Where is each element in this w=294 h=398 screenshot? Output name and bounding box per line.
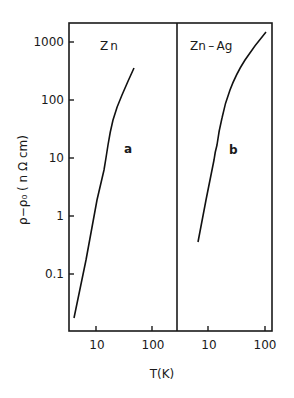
curve-label-b: b bbox=[229, 143, 238, 157]
y-axis-tick-labels: 1000 100 10 1 0.1 bbox=[33, 35, 64, 281]
curve-a bbox=[74, 68, 134, 318]
y-tick-label: 1000 bbox=[33, 35, 64, 49]
x-axis-title: T(K) bbox=[149, 367, 175, 381]
curve-b bbox=[198, 32, 266, 242]
y-tick-label: 0.1 bbox=[45, 267, 64, 281]
x-tick-label: 10 bbox=[89, 338, 104, 352]
y-tick-label: 10 bbox=[49, 151, 64, 165]
x-axis-tick-labels: 10 100 10 100 bbox=[89, 338, 276, 352]
curve-label-a: a bbox=[124, 142, 132, 156]
y-tick-label: 1 bbox=[56, 209, 64, 223]
panel-label-zn: Zn bbox=[100, 39, 120, 53]
x-tick-label: 100 bbox=[142, 338, 165, 352]
panel-label-zn-ag: Zn – Ag bbox=[190, 39, 232, 53]
y-tick-label: 100 bbox=[41, 93, 64, 107]
x-tick-label: 10 bbox=[201, 338, 216, 352]
plot-frame bbox=[69, 23, 272, 331]
resistivity-chart: 1000 100 10 1 0.1 10 100 10 100 Zn Zn – … bbox=[0, 0, 294, 398]
x-tick-label: 100 bbox=[254, 338, 277, 352]
y-axis-title: ρ−ρ₀ ( n Ω cm) bbox=[16, 135, 30, 225]
